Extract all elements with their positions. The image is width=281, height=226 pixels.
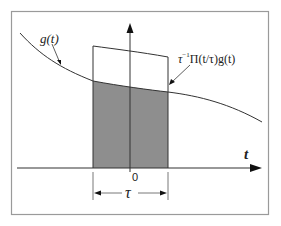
vertical-axis-arrowhead-icon xyxy=(127,23,134,33)
tau-label: τ xyxy=(125,184,132,201)
diagram-figure: g(t) τ−1Π(t/τ)g(t) t 0 τ xyxy=(0,0,281,226)
tau-left-arrowhead-icon xyxy=(94,191,101,196)
g-curve-label: g(t) xyxy=(40,31,59,46)
product-pointer-line xyxy=(172,65,190,82)
origin-label: 0 xyxy=(132,171,138,183)
tau-right-arrowhead-icon xyxy=(160,191,167,196)
t-axis-label: t xyxy=(244,146,249,162)
time-axis-arrowhead-icon xyxy=(250,164,262,172)
product-label: τ−1Π(t/τ)g(t) xyxy=(178,51,235,66)
